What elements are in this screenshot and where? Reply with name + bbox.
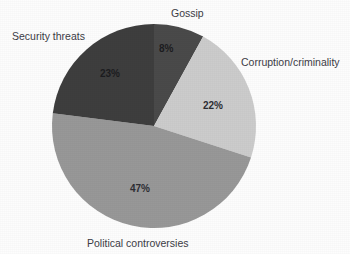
pie-category-label-security-threats: Security threats: [12, 31, 85, 42]
chart-page: 8% 22% 47% 23% Gossip Corruption/crimina…: [0, 0, 350, 254]
pie-data-label-security-threats: 23%: [100, 69, 120, 79]
pie-data-label-gossip: 8%: [159, 44, 173, 54]
pie-category-label-corruption-criminality: Corruption/criminality: [241, 57, 340, 68]
pie-category-label-political-controversies: Political controversies: [87, 238, 189, 249]
pie-data-label-political-controversies: 47%: [130, 184, 150, 194]
pie-category-label-gossip: Gossip: [171, 8, 204, 19]
pie-chart-figure: 8% 22% 47% 23% Gossip Corruption/crimina…: [0, 0, 350, 254]
pie-data-label-corruption-criminality: 22%: [203, 101, 223, 111]
